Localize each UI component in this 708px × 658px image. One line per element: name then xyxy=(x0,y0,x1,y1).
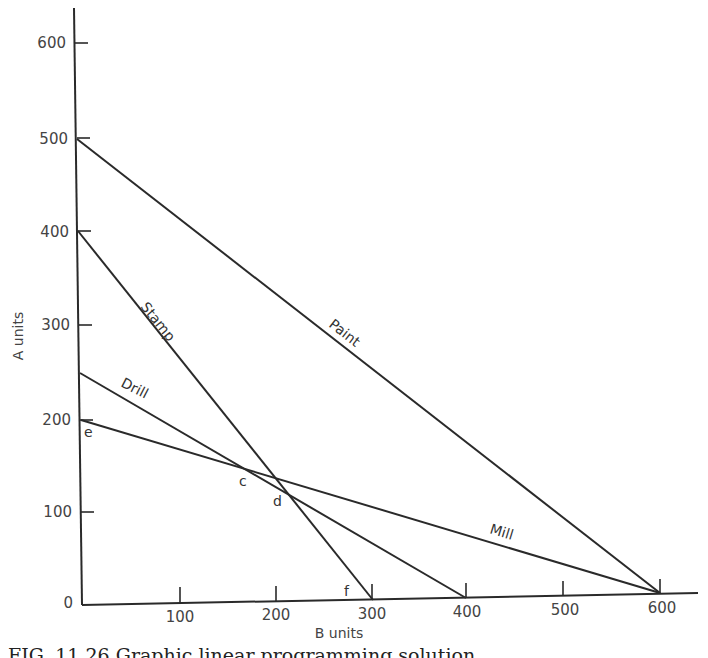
x-tick-600: 600 xyxy=(648,599,677,617)
x-tick-200: 200 xyxy=(262,606,291,624)
x-tick-labels: 100 200 300 400 500 600 xyxy=(166,599,677,626)
origin-label: 0 xyxy=(63,594,73,612)
paint-label: Paint xyxy=(326,316,364,350)
x-tick-500: 500 xyxy=(551,601,580,619)
point-f-label: f xyxy=(344,583,350,599)
point-e-label: e xyxy=(84,424,93,440)
mill-line xyxy=(81,420,660,593)
y-tick-500: 500 xyxy=(39,130,68,148)
y-tick-200: 200 xyxy=(42,411,71,429)
stamp-label: Stamp xyxy=(138,299,179,345)
y-tick-100: 100 xyxy=(43,503,72,521)
point-d-label: d xyxy=(273,493,282,509)
x-tick-100: 100 xyxy=(166,608,195,626)
y-tick-400: 400 xyxy=(40,223,69,241)
paint-line xyxy=(77,139,660,593)
mill-label: Mill xyxy=(488,521,515,543)
x-tick-400: 400 xyxy=(453,603,482,621)
y-tick-300: 300 xyxy=(41,316,70,334)
y-axis xyxy=(74,8,82,605)
y-tick-labels: 600 500 400 300 200 100 0 xyxy=(37,34,73,612)
x-axis-title: B units xyxy=(315,625,363,641)
point-c-label: c xyxy=(239,473,247,489)
x-axis xyxy=(82,593,698,605)
figure-caption: FIG. 11.26 Graphic linear programming so… xyxy=(8,640,708,658)
y-tick-600: 600 xyxy=(37,34,66,52)
lp-chart: 600 500 400 300 200 100 0 100 200 300 40… xyxy=(0,0,708,658)
stamp-line xyxy=(78,231,373,600)
drill-line xyxy=(80,373,466,598)
y-axis-title: A units xyxy=(10,312,26,360)
x-ticks xyxy=(180,579,660,604)
constraint-lines xyxy=(77,139,660,600)
x-tick-300: 300 xyxy=(358,605,387,623)
